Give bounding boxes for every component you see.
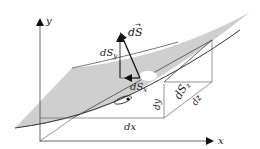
x-axis-label: x xyxy=(218,135,224,146)
surface-element-diagram: y x dS → dSy dSx dSz dx dy dz xyxy=(0,0,260,149)
y-axis-label: y xyxy=(45,15,52,26)
dx-label: dx xyxy=(124,121,136,132)
surface-element-point xyxy=(126,97,129,100)
dz-label: dz xyxy=(189,93,203,108)
vector-arrow-mark: → xyxy=(135,21,141,29)
dy-label: dy xyxy=(152,98,162,110)
surface-highlight xyxy=(139,71,157,81)
dSy-label: dSy xyxy=(100,47,118,60)
